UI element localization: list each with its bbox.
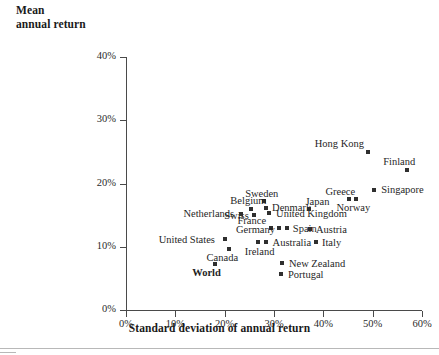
x-tick-mark <box>323 311 324 317</box>
data-point-marker <box>264 206 268 210</box>
data-point-marker <box>249 207 253 211</box>
page-divider-stub <box>0 352 16 353</box>
data-point-label: Finland <box>383 156 415 167</box>
x-tick-mark <box>126 311 127 317</box>
y-tick-mark <box>120 184 126 185</box>
data-point-marker <box>223 237 227 241</box>
data-point-label: Singapore <box>381 184 424 195</box>
data-point-marker <box>264 240 268 244</box>
data-point-marker <box>213 262 217 266</box>
data-point-label: Greece <box>325 186 355 197</box>
data-point-label: Germany <box>236 224 275 235</box>
x-axis-title: Standard deviation of annual return <box>0 322 439 334</box>
data-point-label: Italy <box>322 237 341 248</box>
y-tick-label: 0% <box>76 303 116 314</box>
data-point-label: United Kingdom <box>276 208 347 219</box>
data-point-label: Belgium <box>230 195 266 206</box>
data-point-marker <box>405 168 409 172</box>
x-tick-mark <box>274 311 275 317</box>
data-point-marker <box>347 197 351 201</box>
data-point-label: Portugal <box>288 269 324 280</box>
y-axis-title-line2: annual return <box>16 18 146 32</box>
data-point-marker <box>308 227 312 231</box>
y-tick-label: 30% <box>76 113 116 124</box>
y-tick-mark <box>120 57 126 58</box>
data-point-label: New Zealand <box>289 258 345 269</box>
data-point-marker <box>279 272 283 276</box>
x-tick-mark <box>175 311 176 317</box>
y-axis-line <box>126 57 127 311</box>
data-point-marker <box>372 188 376 192</box>
data-point-marker <box>366 150 370 154</box>
x-tick-mark <box>225 311 226 317</box>
y-axis-title-line1: Mean <box>16 4 45 16</box>
scatter-chart: Mean annual return 0%10%20%30%40% 0%10%2… <box>0 0 439 355</box>
data-point-label: Japan <box>306 196 330 207</box>
data-point-marker <box>227 247 231 251</box>
data-point-label: Australia <box>273 237 312 248</box>
x-tick-mark <box>422 311 423 317</box>
data-point-marker <box>256 240 260 244</box>
y-tick-label: 40% <box>76 50 116 61</box>
data-point-marker <box>280 261 284 265</box>
data-point-label: Netherlands <box>183 208 234 219</box>
y-tick-label: 20% <box>76 177 116 188</box>
data-point-label: Canada <box>207 252 239 263</box>
data-point-label: Austria <box>316 224 347 235</box>
data-point-label: Ireland <box>245 246 275 257</box>
data-point-marker <box>307 207 311 211</box>
x-tick-mark <box>373 311 374 317</box>
data-point-marker <box>354 197 358 201</box>
y-tick-mark <box>120 120 126 121</box>
data-point-marker <box>277 226 281 230</box>
y-axis-title: Mean annual return <box>16 4 146 31</box>
y-tick-label: 10% <box>76 240 116 251</box>
page-divider <box>0 348 439 349</box>
data-point-label: Hong Kong <box>315 138 364 149</box>
data-point-marker <box>267 211 271 215</box>
data-point-marker <box>285 226 289 230</box>
data-point-label: United States <box>159 234 215 245</box>
data-point-label: World <box>192 267 221 278</box>
data-point-marker <box>314 240 318 244</box>
y-tick-mark <box>120 247 126 248</box>
data-point-label: Spain <box>293 223 317 234</box>
